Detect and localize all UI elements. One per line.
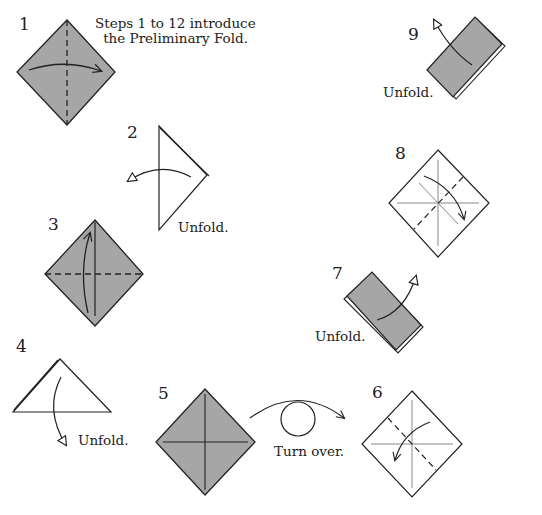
step-number-4: 4 [16,336,27,356]
step-number-9: 9 [408,24,419,44]
turn-over-icon [281,402,315,436]
step-8-diagram [389,150,489,257]
step-4-instruction: Unfold. [78,432,128,448]
step-number-3: 3 [48,214,59,234]
paper-square-colored [45,220,143,326]
step-5-instruction: Turn over. [274,443,344,459]
paper-triangle-white [13,359,111,412]
step-5-diagram [156,389,344,495]
paper-rect-colored [427,17,502,97]
paper-triangle-white [159,126,207,230]
step-6-diagram [362,391,462,497]
step-number-1: 1 [19,14,30,34]
step-number-6: 6 [372,382,383,402]
step-9-diagram [427,17,505,99]
step-number-7: 7 [332,263,343,283]
turn-over-arrow-icon [250,401,344,419]
step-3-diagram [45,220,143,326]
step-number-8: 8 [395,143,406,163]
step-9-instruction: Unfold. [383,84,433,100]
step-number-5: 5 [158,383,169,403]
intro-line-2: the Preliminary Fold. [95,31,248,46]
step-number-2: 2 [127,122,138,142]
intro-text: Steps 1 to 12 introduce the Preliminary … [95,16,248,46]
step-7-instruction: Unfold. [315,328,365,344]
intro-line-1: Steps 1 to 12 introduce [95,16,248,31]
step-2-instruction: Unfold. [178,219,228,235]
step-2-diagram [128,126,209,230]
